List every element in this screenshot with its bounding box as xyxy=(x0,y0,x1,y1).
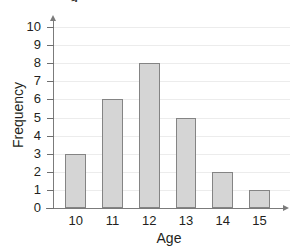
y-axis-title: Frequency xyxy=(10,75,26,155)
chart-title-fragment: g xyxy=(70,0,98,2)
gridline xyxy=(53,27,290,28)
y-axis-tick-label-wrap: 2 xyxy=(17,165,41,178)
gridline xyxy=(53,172,290,173)
x-axis-tick-label: 13 xyxy=(169,213,203,228)
x-axis-tick-label: 12 xyxy=(132,213,166,228)
y-axis-tick-label-wrap: 1 xyxy=(17,183,41,196)
x-axis-arrow-icon xyxy=(283,205,289,211)
y-axis-tick-label: 8 xyxy=(17,56,41,69)
y-axis-line xyxy=(53,20,54,209)
bar xyxy=(65,154,86,208)
x-axis-line xyxy=(46,208,285,209)
y-axis-tick xyxy=(47,154,54,155)
y-axis-tick xyxy=(47,172,54,173)
bar xyxy=(176,118,197,209)
bar xyxy=(102,99,123,208)
bar xyxy=(212,172,233,208)
y-axis-tick xyxy=(47,99,54,100)
bar xyxy=(139,63,160,208)
gridline xyxy=(53,99,290,100)
y-axis-tick xyxy=(47,118,54,119)
gridline xyxy=(53,45,290,46)
x-axis-title: Age xyxy=(53,230,285,246)
x-axis-tick-label: 11 xyxy=(96,213,130,228)
y-axis-tick xyxy=(47,27,54,28)
y-axis-tick xyxy=(47,45,54,46)
y-axis-tick xyxy=(47,136,54,137)
y-axis-tick-label-wrap: 10 xyxy=(17,20,41,33)
x-axis-tick-label: 10 xyxy=(59,213,93,228)
gridline xyxy=(53,136,290,137)
gridline xyxy=(53,154,290,155)
y-axis-tick-label: 2 xyxy=(17,165,41,178)
y-axis-tick-label: 10 xyxy=(17,20,41,33)
y-axis-tick-label: 0 xyxy=(17,201,41,214)
plot-area xyxy=(53,27,290,208)
y-axis-tick-label-wrap: 9 xyxy=(17,38,41,51)
y-axis-arrow-icon xyxy=(50,15,56,21)
y-axis-tick-label: 1 xyxy=(17,183,41,196)
bar-chart: g 012345678910 101112131415 Age Frequenc… xyxy=(0,0,301,250)
gridline xyxy=(53,63,290,64)
x-axis-tick-label: 14 xyxy=(206,213,240,228)
y-axis-tick-label: 9 xyxy=(17,38,41,51)
y-axis-tick-label-wrap: 0 xyxy=(17,201,41,214)
x-axis-tick-label: 15 xyxy=(243,213,277,228)
y-axis-tick-label-wrap: 8 xyxy=(17,56,41,69)
bar xyxy=(249,190,270,208)
y-axis-tick xyxy=(47,81,54,82)
y-axis-tick xyxy=(47,63,54,64)
gridline xyxy=(53,81,290,82)
y-axis-tick xyxy=(47,208,54,209)
y-axis-tick xyxy=(47,190,54,191)
gridline xyxy=(53,118,290,119)
